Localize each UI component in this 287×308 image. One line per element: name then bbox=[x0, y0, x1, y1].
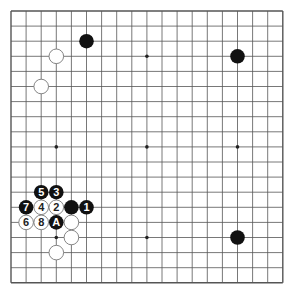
white-stone: 8 bbox=[34, 215, 49, 230]
black-stone bbox=[230, 230, 245, 245]
star-point bbox=[55, 236, 59, 240]
white-stone bbox=[49, 49, 64, 64]
star-point bbox=[145, 145, 149, 149]
move-number-label: 5 bbox=[38, 186, 44, 198]
move-number-label: 1 bbox=[83, 201, 89, 213]
black-stone: A bbox=[49, 215, 64, 230]
black-stone bbox=[230, 49, 245, 64]
move-number-label: A bbox=[52, 216, 60, 228]
black-stone: 7 bbox=[19, 200, 34, 215]
move-number-label: 8 bbox=[38, 216, 44, 228]
black-stone bbox=[79, 34, 94, 49]
white-stone bbox=[64, 230, 79, 245]
go-board: 53742168A bbox=[0, 0, 287, 308]
white-stone bbox=[49, 245, 64, 260]
black-stone: 1 bbox=[79, 200, 94, 215]
white-stone bbox=[64, 215, 79, 230]
move-number-label: 3 bbox=[53, 186, 59, 198]
white-stone bbox=[34, 79, 49, 94]
white-stone: 4 bbox=[34, 200, 49, 215]
white-stone: 6 bbox=[19, 215, 34, 230]
black-stone: 3 bbox=[49, 185, 64, 200]
star-point bbox=[236, 145, 240, 149]
black-stone: 5 bbox=[34, 185, 49, 200]
white-stone: 2 bbox=[49, 200, 64, 215]
move-number-label: 4 bbox=[38, 201, 45, 213]
star-point bbox=[145, 236, 149, 240]
move-number-label: 6 bbox=[23, 216, 29, 228]
move-number-label: 2 bbox=[53, 201, 59, 213]
star-point bbox=[55, 145, 59, 149]
star-point bbox=[145, 55, 149, 59]
move-number-label: 7 bbox=[23, 201, 29, 213]
black-stone bbox=[64, 200, 79, 215]
